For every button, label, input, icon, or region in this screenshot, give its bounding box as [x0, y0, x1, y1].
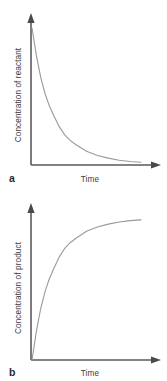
panel-b-product-chart: Concentration of product Time b [0, 190, 167, 381]
y-axis-label: Concentration of reactant [14, 47, 23, 142]
x-axis-arrowhead-icon [151, 161, 161, 168]
y-axis-arrowhead-icon [27, 203, 34, 213]
x-axis-label: Time [81, 175, 100, 184]
product-chart-svg: Concentration of product Time b [0, 190, 167, 381]
panel-letter-a: a [9, 172, 15, 184]
product-formation-curve [32, 220, 141, 360]
reactant-decay-curve [32, 28, 141, 162]
y-axis-arrowhead-icon [27, 13, 34, 23]
reactant-chart-svg: Concentration of reactant Time a [0, 0, 167, 190]
y-axis-label: Concentration of product [14, 241, 23, 334]
x-axis-label: Time [81, 369, 100, 378]
panel-letter-b: b [9, 366, 15, 378]
x-axis-arrowhead-icon [151, 356, 161, 363]
panel-a-reactant-chart: Concentration of reactant Time a [0, 0, 167, 190]
